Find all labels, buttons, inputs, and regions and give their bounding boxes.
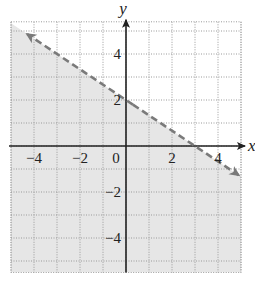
x-tick-label: 4 xyxy=(214,150,222,166)
x-tick-label: 0 xyxy=(112,150,120,166)
x-tick-label: −4 xyxy=(26,150,42,166)
y-axis-label: y xyxy=(117,0,127,18)
y-tick-label: −2 xyxy=(105,184,121,200)
y-tick-label: −4 xyxy=(105,230,121,246)
plot-area: −4−202442−2−4xy xyxy=(0,0,255,281)
x-tick-label: −2 xyxy=(72,150,88,166)
inequality-graph: −4−202442−2−4xy xyxy=(0,0,255,281)
x-axis-label: x xyxy=(247,136,255,155)
y-tick-label: 4 xyxy=(114,46,122,62)
x-tick-label: 2 xyxy=(168,150,176,166)
y-tick-label: 2 xyxy=(114,92,122,108)
